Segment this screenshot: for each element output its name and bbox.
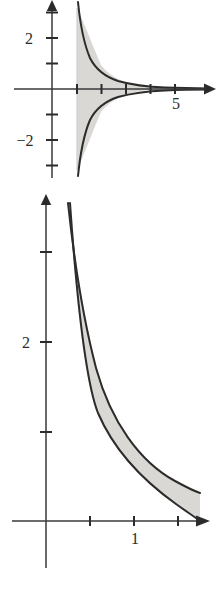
x-axis-arrow-top — [204, 84, 216, 95]
y-axis-arrow-top — [47, 0, 57, 11]
y-axis-arrow-bottom — [41, 194, 51, 205]
x-axis-label-one-bottom: 1 — [131, 530, 139, 547]
x-axis-arrow-bottom — [196, 516, 210, 527]
x-axis-label-five-top: 5 — [172, 95, 180, 112]
figure-root: 2 −2 5 2 1 — [0, 0, 218, 591]
y-axis-label-two-top: 2 — [25, 30, 33, 47]
chart-band-region: 2 1 — [0, 190, 218, 591]
chart-hyperbolic-region: 2 −2 5 — [0, 0, 218, 190]
y-axis-label-two-bottom: 2 — [22, 334, 30, 351]
y-axis-label-minus-two-top: −2 — [16, 132, 33, 149]
shaded-region-bottom — [69, 204, 200, 521]
